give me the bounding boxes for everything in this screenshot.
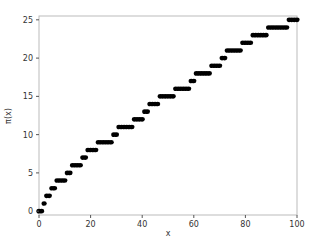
x-tick-label: 0 xyxy=(36,220,41,229)
data-point xyxy=(186,86,191,91)
data-point xyxy=(207,71,212,76)
data-point xyxy=(171,94,176,99)
data-point xyxy=(109,140,114,145)
x-axis-ticks: 020406080100 xyxy=(36,215,304,229)
data-point xyxy=(52,186,57,191)
data-point xyxy=(62,178,67,183)
x-tick-label: 100 xyxy=(289,220,304,229)
data-point xyxy=(47,194,52,199)
data-point xyxy=(222,56,227,61)
data-point xyxy=(155,102,160,107)
data-point xyxy=(129,125,134,130)
y-axis-label: π(x) xyxy=(4,108,13,124)
y-axis-ticks: 0510152025 xyxy=(23,16,39,216)
data-point xyxy=(42,201,47,206)
data-point xyxy=(191,79,196,84)
x-tick-label: 40 xyxy=(137,220,147,229)
chart: 020406080100 0510152025 x π(x) xyxy=(0,0,320,250)
data-point xyxy=(39,209,44,214)
data-point xyxy=(78,163,83,168)
plot-area xyxy=(39,16,297,215)
x-tick-label: 20 xyxy=(86,220,96,229)
data-point xyxy=(248,40,253,45)
data-point xyxy=(93,148,98,153)
data-point xyxy=(140,117,145,122)
x-axis-label: x xyxy=(166,229,171,238)
y-tick-label: 25 xyxy=(23,16,33,25)
data-point xyxy=(263,33,268,38)
y-tick-label: 10 xyxy=(23,131,33,140)
data-point xyxy=(67,171,72,176)
data-point xyxy=(284,25,289,30)
x-tick-label: 60 xyxy=(189,220,199,229)
data-point xyxy=(114,132,119,137)
data-point xyxy=(238,48,243,53)
data-point xyxy=(294,18,299,23)
data-point xyxy=(145,109,150,114)
data-point xyxy=(217,63,222,68)
y-tick-label: 0 xyxy=(28,207,33,216)
y-tick-label: 5 xyxy=(28,169,33,178)
y-tick-label: 15 xyxy=(23,92,33,101)
x-tick-label: 80 xyxy=(240,220,250,229)
data-point xyxy=(83,155,88,160)
y-tick-label: 20 xyxy=(23,54,33,63)
